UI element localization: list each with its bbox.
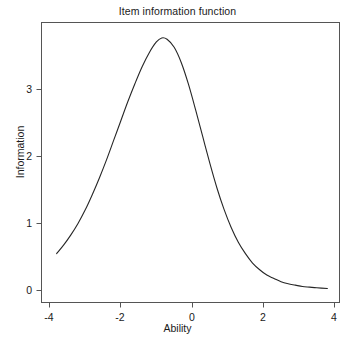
y-tick-label-0: 0 [14, 284, 32, 296]
item-information-chart: Item information function 0 1 2 3 -4 -2 … [0, 0, 355, 345]
plot-frame [42, 23, 340, 303]
y-axis-label: Information [14, 92, 26, 212]
y-tick-label-1: 1 [14, 217, 32, 229]
x-axis-label: Ability [0, 322, 355, 334]
y-axis-ticks [37, 90, 42, 291]
x-axis-ticks [50, 303, 335, 308]
plot-canvas [0, 0, 355, 345]
